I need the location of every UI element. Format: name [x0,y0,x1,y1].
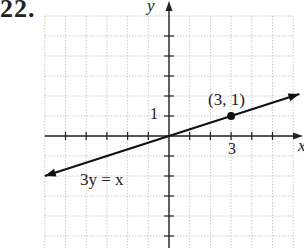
y-axis-label: y [147,0,155,16]
x-tick-label: 3 [228,140,236,158]
axes [45,1,303,248]
line-plot [45,94,300,177]
problem-number: 22. [0,0,36,24]
x-axis-label: x [298,136,304,156]
coordinate-plane [0,0,304,248]
point-label: (3, 1) [208,90,245,110]
equation-label: 3y = x [80,170,124,190]
y-tick-label: 1 [150,105,158,123]
